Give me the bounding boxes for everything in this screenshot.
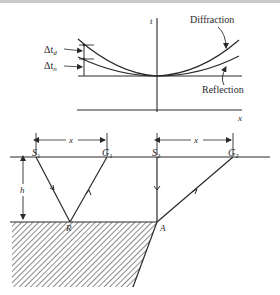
delta-td-label: Δtd — [44, 44, 57, 57]
geophone-1-label: G1 — [102, 147, 113, 160]
delta-tn-label: Δtn — [44, 60, 57, 73]
delta-tn-main: Δt — [44, 60, 53, 71]
raypath-geometry: x x S1 G1 S2 G2 h — [10, 133, 270, 287]
delta-td-main: Δt — [44, 44, 53, 55]
delta-td-sub: d — [53, 49, 57, 57]
offset-label-1: x — [68, 135, 73, 145]
depth-label: h — [20, 185, 25, 195]
traveltime-plot: t x Diffraction Reflection Δtd Δtn — [44, 14, 244, 123]
t-axis-label: t — [150, 16, 153, 26]
x-axis-label: x — [237, 113, 242, 123]
diffracted-ray-a-g2 — [157, 157, 233, 222]
diffraction-reflection-diagram: t x Diffraction Reflection Δtd Δtn — [0, 0, 280, 295]
reflection-label: Reflection — [202, 84, 244, 95]
reflector-block — [12, 222, 157, 287]
offset-label-2: x — [193, 135, 198, 145]
reflection-point-label: R — [65, 223, 72, 233]
geophone-2-label: G2 — [228, 147, 239, 160]
diffraction-pointer — [218, 27, 226, 48]
delta-tn-sub: n — [53, 65, 57, 73]
diffraction-curve — [78, 39, 239, 76]
reflected-ray-r-g1 — [70, 157, 107, 222]
delta-tn-pointer — [64, 66, 82, 67]
reflected-ray-arrow — [86, 190, 91, 195]
diffraction-label: Diffraction — [190, 14, 234, 25]
reflection-curve — [78, 56, 239, 76]
diffraction-point-label: A — [159, 223, 166, 233]
delta-td-pointer — [64, 49, 82, 51]
